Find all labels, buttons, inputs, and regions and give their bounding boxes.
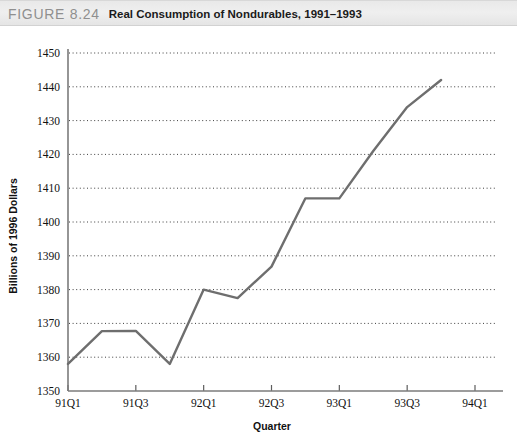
y-tick-label: 1380	[37, 284, 60, 296]
y-tick-label: 1400	[37, 216, 60, 228]
x-tick-group: 91Q191Q392Q192Q393Q193Q394Q1	[55, 385, 488, 409]
line-chart-svg: 1350136013701380139014001410142014301440…	[0, 26, 517, 437]
y-tick-label: 1430	[37, 115, 60, 127]
y-tick-label: 1360	[37, 351, 60, 363]
y-tick-group: 1350136013701380139014001410142014301440…	[37, 47, 60, 397]
x-tick-label: 91Q3	[123, 397, 149, 409]
y-axis-title: Billions of 1996 Dollars	[7, 178, 19, 294]
y-tick-label: 1410	[37, 182, 60, 194]
x-axis-title: Quarter	[253, 420, 291, 432]
x-tick-label: 92Q1	[191, 397, 217, 409]
y-tick-label: 1450	[37, 47, 60, 59]
x-tick-label: 93Q1	[327, 397, 353, 409]
y-tick-label: 1390	[37, 250, 60, 262]
y-tick-label: 1440	[37, 81, 60, 93]
x-tick-label: 91Q1	[55, 397, 81, 409]
figure-container: FIGURE 8.24 Real Consumption of Nondurab…	[0, 0, 517, 437]
x-tick-label: 94Q1	[462, 397, 488, 409]
x-tick-label: 92Q3	[259, 397, 285, 409]
figure-number-label: FIGURE 8.24	[8, 6, 100, 22]
figure-title: Real Consumption of Nondurables, 1991–19…	[109, 8, 362, 20]
y-tick-label: 1350	[37, 385, 60, 397]
y-tick-label: 1370	[37, 317, 60, 329]
figure-header: FIGURE 8.24 Real Consumption of Nondurab…	[0, 0, 517, 26]
x-tick-label: 93Q3	[394, 397, 420, 409]
y-tick-label: 1420	[37, 148, 60, 160]
gridline-group	[69, 53, 497, 357]
chart-plot-area: 1350136013701380139014001410142014301440…	[0, 26, 517, 437]
